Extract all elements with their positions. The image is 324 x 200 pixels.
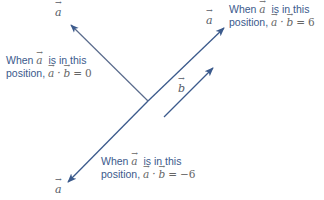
a-symbol: a	[143, 168, 149, 181]
annotation-line2: position, a · b = 0	[6, 67, 92, 80]
a-symbol: a	[36, 54, 42, 67]
vector-a-label-top-left: a	[55, 6, 62, 19]
equals-symbol: =	[296, 16, 305, 28]
a-symbol: a	[48, 67, 54, 80]
vector-a-label-top-right: a	[206, 14, 213, 27]
position-text: position,	[101, 168, 140, 180]
position-text: position,	[229, 16, 268, 28]
equals-symbol: =	[73, 67, 82, 79]
dot-product-value: 0	[85, 67, 92, 79]
when-text: When	[101, 155, 128, 167]
b-symbol: b	[63, 67, 70, 80]
annotation-parallel: When a is in this position, a · b = 6	[229, 3, 315, 29]
dot-product-value: −6	[180, 168, 195, 180]
dot-symbol: ·	[152, 168, 155, 180]
dot-symbol: ·	[280, 16, 283, 28]
a-symbol: a	[259, 3, 265, 16]
vector-b-label: b	[178, 82, 185, 95]
vector-a-parallel-arrow	[148, 28, 224, 101]
equals-symbol: =	[168, 168, 177, 180]
annotation-antiparallel: When a is in this position, a · b = −6	[101, 155, 195, 181]
b-symbol: b	[286, 16, 293, 29]
a-symbol: a	[271, 16, 277, 29]
dot-product-value: 6	[308, 16, 315, 28]
position-text: position,	[6, 67, 45, 79]
annotation-perpendicular: When a is in this position, a · b = 0	[6, 54, 92, 80]
dot-symbol: ·	[57, 67, 60, 79]
annotation-line2: position, a · b = −6	[101, 168, 195, 181]
b-symbol: b	[158, 168, 165, 181]
vector-b-arrow	[164, 68, 213, 117]
vector-a-label-bottom-left: a	[55, 183, 62, 196]
a-symbol: a	[131, 155, 137, 168]
annotation-line2: position, a · b = 6	[229, 16, 315, 29]
when-text: When	[6, 54, 33, 66]
when-text: When	[229, 3, 256, 15]
